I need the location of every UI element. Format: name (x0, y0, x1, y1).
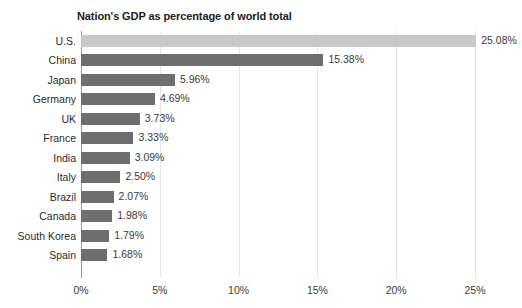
bar-value-label: 2.50% (125, 170, 155, 182)
category-label: Japan (2, 74, 76, 86)
bar[interactable] (81, 171, 120, 183)
bar[interactable] (81, 191, 114, 203)
bar-row[interactable]: 3.33% (81, 129, 522, 149)
category-label: India (2, 152, 76, 164)
x-axis-tick-label: 25% (464, 284, 485, 296)
bar-value-label: 2.07% (119, 190, 149, 202)
bar-value-label: 15.38% (328, 53, 364, 65)
bar-value-label: 1.79% (114, 229, 144, 241)
bar-value-label: 25.08% (481, 34, 517, 46)
bar-value-label: 1.98% (117, 209, 147, 221)
bar[interactable] (81, 35, 476, 47)
bar-row[interactable]: 5.96% (81, 70, 522, 90)
x-axis-tick-label: 15% (307, 284, 328, 296)
category-label: Spain (2, 249, 76, 261)
x-axis-tick-label: 10% (228, 284, 249, 296)
plot-area: 25.08%15.38%5.96%4.69%3.73%3.33%3.09%2.5… (81, 31, 475, 278)
category-label: South Korea (2, 230, 76, 242)
x-axis-tick-label: 20% (386, 284, 407, 296)
bar-value-label: 3.73% (145, 112, 175, 124)
bar[interactable] (81, 132, 133, 144)
bar-row[interactable]: 1.79% (81, 226, 522, 246)
bar-row[interactable]: 3.73% (81, 109, 522, 129)
bar-row[interactable]: 15.38% (81, 51, 522, 71)
bar-row[interactable]: 1.68% (81, 246, 522, 266)
category-label: France (2, 132, 76, 144)
bar-row[interactable]: 3.09% (81, 148, 522, 168)
bar-value-label: 1.68% (112, 248, 142, 260)
bar[interactable] (81, 113, 140, 125)
category-label: Brazil (2, 191, 76, 203)
bar[interactable] (81, 210, 112, 222)
bar[interactable] (81, 249, 107, 261)
bar-value-label: 5.96% (180, 73, 210, 85)
category-label: China (2, 54, 76, 66)
bar-value-label: 4.69% (160, 92, 190, 104)
category-label: Germany (2, 93, 76, 105)
bar-row[interactable]: 1.98% (81, 207, 522, 227)
bar-row[interactable]: 4.69% (81, 90, 522, 110)
bar[interactable] (81, 230, 109, 242)
x-axis-tick-label: 5% (152, 284, 167, 296)
bar-row[interactable]: 2.07% (81, 187, 522, 207)
category-label: U.S. (2, 35, 76, 47)
bar[interactable] (81, 54, 323, 66)
x-axis-tick-label: 0% (73, 284, 88, 296)
bar-value-label: 3.33% (138, 131, 168, 143)
bar[interactable] (81, 152, 130, 164)
bar-row[interactable]: 25.08% (81, 31, 522, 51)
category-label: Canada (2, 210, 76, 222)
bar-row[interactable]: 2.50% (81, 168, 522, 188)
category-label: UK (2, 113, 76, 125)
bar[interactable] (81, 93, 155, 105)
category-label: Italy (2, 171, 76, 183)
chart-title: Nation's GDP as percentage of world tota… (77, 10, 292, 22)
bar[interactable] (81, 74, 175, 86)
bar-value-label: 3.09% (135, 151, 165, 163)
